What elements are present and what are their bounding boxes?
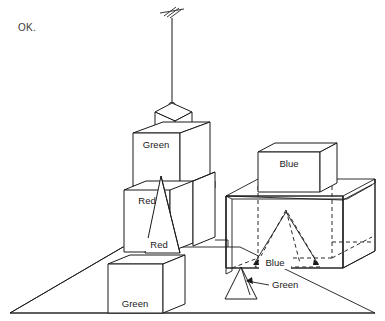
object-label-blue-pyramid: Blue (265, 257, 284, 268)
robot-gripper-arm[interactable] (160, 7, 184, 106)
object-blue-pyramid[interactable]: Blue (253, 210, 320, 269)
blocks-world-scene: Red Green Red Red (0, 0, 385, 321)
object-label-red-block-left: Red (138, 195, 155, 206)
object-label-green-cube-mid: Green (143, 139, 169, 150)
object-blue-box[interactable]: Blue (258, 143, 337, 192)
ground-plane (10, 247, 375, 313)
object-green-cube-mid[interactable]: Green (133, 122, 210, 186)
object-label-green-cone: Green (272, 279, 298, 290)
status-message: OK. (18, 22, 36, 33)
object-label-blue-box: Blue (279, 158, 298, 169)
open-box-container[interactable] (226, 179, 375, 274)
scene-canvas: Red Green Red Red (0, 0, 385, 321)
object-label-green-block-low: Green (122, 298, 148, 309)
object-label-red-cone-tall: Red (150, 239, 167, 250)
object-green-block-low[interactable]: Green (108, 255, 185, 313)
object-back-slab (193, 172, 228, 247)
object-green-cone[interactable]: Green (225, 267, 298, 299)
